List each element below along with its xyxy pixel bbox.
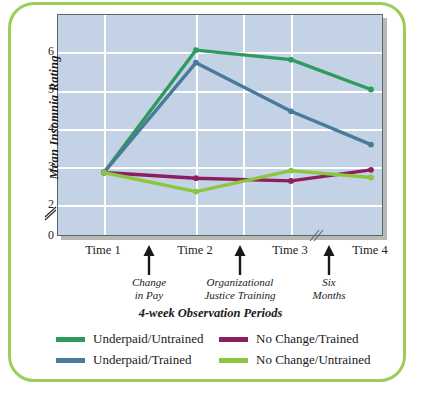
legend-label: No Change/Untrained <box>256 352 370 368</box>
x-axis-break-icon <box>307 228 325 244</box>
x-tick-label-time2: Time 2 <box>160 243 230 258</box>
data-point <box>288 57 294 63</box>
annotation-arrow-oj-training <box>234 245 246 275</box>
chart-figure: 6 5 4 3 2 0 Mean Insomnia Rating Time 1 … <box>0 0 421 395</box>
legend-label: No Change/Trained <box>256 331 358 347</box>
data-point <box>368 87 374 93</box>
legend-swatch-icon <box>56 337 85 342</box>
data-point <box>193 175 199 181</box>
annotation-line2: Months <box>269 289 389 302</box>
annotation-six-months: Six Months <box>269 276 389 301</box>
data-point <box>368 142 374 148</box>
data-point <box>193 47 199 53</box>
annotation-line1: Six <box>269 276 389 289</box>
legend-label: Underpaid/Trained <box>93 352 191 368</box>
data-point <box>288 178 294 184</box>
legend-item-no-change-untrained[interactable]: No Change/Untrained <box>219 352 370 368</box>
annotation-arrow-change-in-pay <box>143 245 155 275</box>
x-axis-title: 4-week Observation Periods <box>0 306 421 321</box>
legend-swatch-icon <box>219 358 248 363</box>
series-plot <box>58 15 384 237</box>
legend-item-no-change-trained[interactable]: No Change/Trained <box>219 331 358 347</box>
y-tick-label: 2 <box>36 197 54 212</box>
y-axis-title: Mean Insomnia Rating <box>47 48 62 188</box>
annotation-arrow-six-months <box>323 245 335 275</box>
legend-swatch-icon <box>56 358 85 363</box>
series-line <box>104 50 371 172</box>
data-point <box>101 170 107 176</box>
plot-area <box>57 14 383 236</box>
data-point <box>288 168 294 174</box>
legend-label: Underpaid/Untrained <box>93 331 203 347</box>
y-axis-ticks: 6 5 4 3 2 0 Mean Insomnia Rating <box>30 14 54 236</box>
y-tick-label: 0 <box>36 228 54 243</box>
data-point <box>193 60 199 66</box>
legend-item-underpaid-trained[interactable]: Underpaid/Trained <box>56 352 191 368</box>
data-point <box>288 108 294 114</box>
legend-item-underpaid-untrained[interactable]: Underpaid/Untrained <box>56 331 203 347</box>
x-tick-label-time1: Time 1 <box>68 243 138 258</box>
chart-legend: Underpaid/Untrained Underpaid/Trained No… <box>56 331 376 375</box>
legend-swatch-icon <box>219 337 248 342</box>
data-point <box>368 167 374 173</box>
x-tick-label-time4: Time 4 <box>335 243 405 258</box>
data-point <box>368 175 374 181</box>
data-point <box>193 189 199 195</box>
x-tick-label-time3: Time 3 <box>255 243 325 258</box>
